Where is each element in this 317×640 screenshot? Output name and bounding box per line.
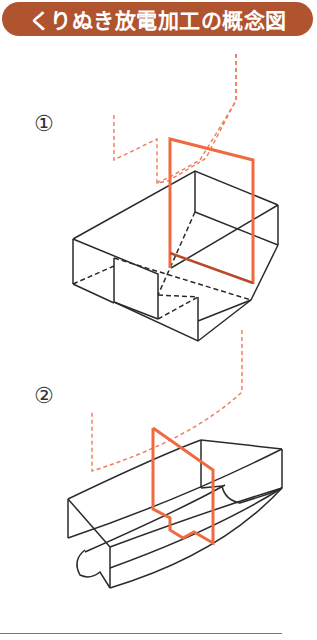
diagram-1	[73, 54, 278, 341]
electrode-path-1c	[114, 115, 200, 183]
workpiece-2	[68, 440, 282, 588]
electrode-path-2	[92, 330, 242, 471]
eda-concept-diagram	[0, 0, 317, 640]
bottom-rule	[0, 633, 282, 634]
electrode-1	[170, 139, 253, 284]
diagram-2	[68, 330, 282, 588]
electrode-path-1b	[200, 54, 236, 162]
